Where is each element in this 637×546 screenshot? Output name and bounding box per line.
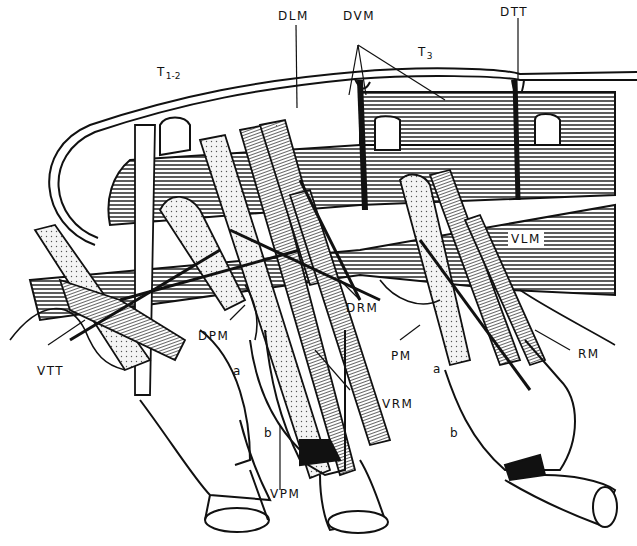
label-vtt: VTT xyxy=(37,365,64,377)
label-b-left: b xyxy=(264,427,273,439)
thorax-musculature-drawing xyxy=(0,0,637,546)
label-t1-2-main: T xyxy=(157,65,166,79)
label-pm: PM xyxy=(391,350,412,362)
label-vpm: VPM xyxy=(270,488,300,500)
label-b-right: b xyxy=(450,427,459,439)
label-dpm: DPM xyxy=(198,330,229,342)
label-dlm: DLM xyxy=(278,10,309,22)
label-t1-2-sub: 1-2 xyxy=(166,71,181,81)
label-t3-sub: 3 xyxy=(427,51,433,61)
label-dvm: DVM xyxy=(343,10,375,22)
label-a-left: a xyxy=(233,365,242,377)
label-vrm: VRM xyxy=(382,398,413,410)
label-vlm: VLM xyxy=(508,232,544,246)
label-t3-main: T xyxy=(418,45,427,59)
leg-right xyxy=(445,340,617,527)
label-dtt: DTT xyxy=(500,6,528,18)
label-a-right: a xyxy=(433,363,442,375)
label-t1-2: T1-2 xyxy=(157,66,181,81)
label-drm: DRM xyxy=(346,302,378,314)
label-rm: RM xyxy=(578,348,600,360)
label-t3: T3 xyxy=(418,46,433,61)
